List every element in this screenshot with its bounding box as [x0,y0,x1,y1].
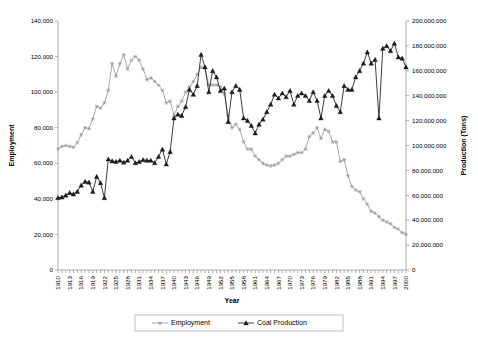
x-tick-label: 1910 [54,275,61,289]
x-tick-label: 1997 [391,275,398,289]
data-point-marker [334,103,339,107]
y-tick-label-right: 20,000,000 [412,241,444,248]
data-point-marker [176,112,181,116]
data-point-marker [384,44,389,48]
y-tick-label-right: 100,000,000 [412,142,447,149]
data-point-marker [261,117,266,121]
y-tick-label-right: 120,000,000 [412,117,447,124]
data-point-marker [245,118,250,122]
series-employment [56,53,408,236]
x-tick-label: 1955 [228,275,235,289]
x-tick-label: 1922 [101,275,108,289]
data-point-marker [299,91,304,95]
y-tick-label-right: 60,000,000 [412,192,444,199]
data-point-marker [141,158,146,162]
x-tick-label: 1964 [263,275,270,289]
x-tick-label: 1946 [193,275,200,289]
data-point-marker [207,90,212,94]
data-point-marker [404,65,409,69]
data-point-marker [288,88,293,92]
y-tick-label-right: 40,000,000 [412,216,444,223]
x-tick-label: 1985 [344,275,351,289]
y-tick-label-right: 140,000,000 [412,92,447,99]
series-line [58,43,406,197]
data-point-marker [295,93,300,97]
data-point-marker [292,102,297,106]
data-point-marker [241,116,246,120]
y-tick-label-left: 40,000 [34,195,53,202]
data-point-marker [199,52,204,56]
y-tick-label-right: 160,000,000 [412,67,447,74]
chart-container: 020,00040,00060,00080,000100,000120,0001… [0,0,478,344]
data-point-marker [164,162,169,166]
y-tick-label-right: 200,000,000 [412,17,447,24]
data-point-marker [280,91,285,95]
y-tick-label-left: 60,000 [34,159,53,166]
x-tick-label: 1949 [205,275,212,289]
chart-legend: EmploymentCoal Production [135,315,343,331]
data-point-marker [222,86,227,90]
data-point-marker [311,90,316,94]
y-tick-label-left: 100,000 [31,88,54,95]
data-point-marker [67,191,72,195]
data-point-marker [272,92,277,96]
x-tick-label: 1967 [275,275,282,289]
data-point-marker [319,116,324,120]
data-point-marker [183,105,188,109]
data-point-marker [63,193,68,197]
x-tick-label: 1937 [159,275,166,289]
series-coal-production [56,41,409,200]
series-line [58,55,406,235]
data-point-marker [342,83,347,87]
x-tick-label: 1982 [333,275,340,289]
x-tick-label: 1988 [356,275,363,289]
y-tick-label-left: 80,000 [34,124,53,131]
x-tick-label: 1979 [321,275,328,289]
x-tick-label: 1928 [124,275,131,289]
x-tick-label: 1961 [251,275,258,289]
legend-label: Employment [171,319,210,327]
data-point-marker [315,98,320,102]
data-point-marker [152,161,157,165]
data-point-marker [106,157,111,161]
x-tick-label: 1916 [77,275,84,289]
data-point-marker [118,158,123,162]
employment-coal-production-chart: 020,00040,00060,00080,000100,000120,0001… [0,0,478,344]
data-point-marker [353,75,358,79]
x-tick-label: 1991 [367,275,374,289]
data-point-marker [357,69,362,73]
data-point-marker [83,179,88,183]
x-tick-label: 1919 [89,275,96,289]
data-point-marker [338,110,343,114]
x-axis-title: Year [225,297,240,304]
y-tick-label-right: 80,000,000 [412,167,444,174]
y-tick-label-left: 120,000 [31,53,54,60]
x-tick-label: 1934 [147,275,154,289]
data-point-marker [214,75,219,79]
data-point-marker [160,147,165,151]
x-tick-label: 1940 [170,275,177,289]
data-point-marker [129,154,134,158]
data-point-marker [210,69,215,73]
data-point-marker [396,55,401,59]
data-point-marker [195,83,200,87]
data-point-marker [381,46,386,50]
data-point-marker [326,88,331,92]
y-tick-label-right: 180,000,000 [412,42,447,49]
data-point-marker [94,174,99,178]
data-point-marker [253,131,258,135]
x-tick-label: 1943 [182,275,189,289]
x-tick-label: 1970 [286,275,293,289]
y-tick-label-left: 20,000 [34,231,53,238]
x-tick-label: 1925 [112,275,119,289]
data-point-marker [392,41,397,45]
data-point-marker [265,110,270,114]
y-tick-label-right: 0 [412,266,416,273]
data-point-marker [168,149,173,153]
x-tick-label: 1958 [240,275,247,289]
x-tick-label: 1952 [217,275,224,289]
y-tick-label-left: 140,000 [31,17,54,24]
data-point-marker [361,61,366,65]
legend-label: Coal Production [257,319,307,326]
data-point-marker [365,50,370,54]
